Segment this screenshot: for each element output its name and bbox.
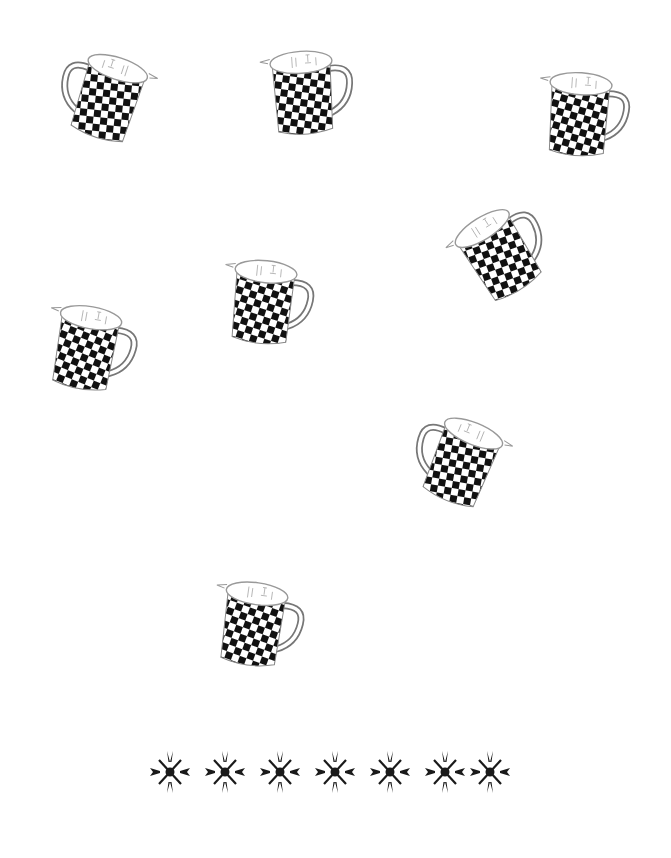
snowflake-ornament-icon [258,748,302,796]
checkered-mug-icon [524,54,641,171]
checkered-mug-icon [26,283,153,410]
checkered-mug-icon [207,241,328,362]
snowflake-ornament-icon [368,748,412,796]
checkered-mug-icon [387,387,530,530]
checkered-mug-icon [425,175,577,327]
snowflake-ornament-icon [423,748,467,796]
snowflake-ornament-icon [468,748,512,796]
ornament-border-row [148,748,518,798]
checkered-mug-icon [36,26,175,165]
checkered-mug-icon [195,561,319,685]
snowflake-ornament-icon [148,748,192,796]
checkered-mug-icon [248,32,365,149]
snowflake-ornament-icon [313,748,357,796]
snowflake-ornament-icon [203,748,247,796]
